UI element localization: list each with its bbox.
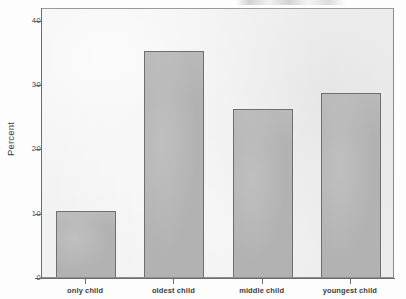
bar-only-child xyxy=(56,211,116,277)
x-tick-label-youngest-child: youngest child xyxy=(306,286,394,295)
x-tick-mark xyxy=(85,279,86,284)
x-tick-mark xyxy=(262,279,263,284)
plot-area xyxy=(41,8,394,278)
y-tick-label: 20 xyxy=(13,145,41,153)
y-tick-label: 10 xyxy=(13,210,41,218)
bar-oldest-child xyxy=(144,51,204,277)
x-tick-mark xyxy=(173,279,174,284)
bar-chart-figure: 010203040 only childoldest childmiddle c… xyxy=(0,0,406,299)
y-tick-label: 0 xyxy=(13,274,41,282)
y-tick-label: 30 xyxy=(13,81,41,89)
x-tick-label-oldest-child: oldest child xyxy=(129,286,217,295)
y-tick-label-wrap: 0 xyxy=(0,274,41,282)
y-tick-label-wrap: 10 xyxy=(0,210,41,218)
bars-layer xyxy=(42,9,393,277)
y-tick-label-wrap: 30 xyxy=(0,81,41,89)
bar-youngest-child xyxy=(321,93,381,277)
bar-middle-child xyxy=(233,109,293,277)
y-tick-label-wrap: 40 xyxy=(0,17,41,25)
x-tick-label-middle-child: middle child xyxy=(218,286,306,295)
y-tick-label: 40 xyxy=(13,17,41,25)
x-tick-mark xyxy=(350,279,351,284)
y-axis-title: Percent xyxy=(6,104,16,174)
x-tick-label-only-child: only child xyxy=(41,286,129,295)
x-axis-line xyxy=(41,278,395,279)
scan-artifact xyxy=(236,0,346,5)
